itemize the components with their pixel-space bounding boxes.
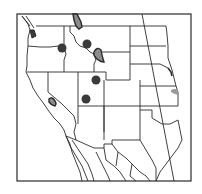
map-svg — [0, 0, 202, 194]
dot-oregon-idaho — [58, 44, 67, 53]
dot-northern-utah — [92, 76, 101, 85]
dot-central-idaho — [83, 40, 92, 49]
range-map — [0, 0, 202, 194]
dot-central-utah — [82, 95, 91, 104]
